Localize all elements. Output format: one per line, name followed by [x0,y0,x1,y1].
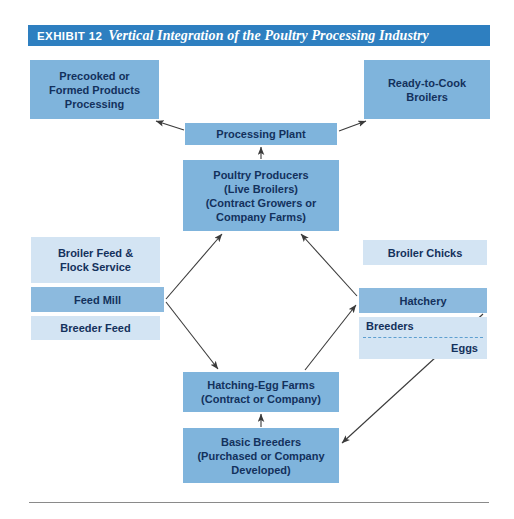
node-label-line: Broiler Feed & [58,246,133,260]
node-label-line: Developed) [231,463,290,477]
edge-processing-plant-to-ready-to-cook [339,121,366,131]
edge-feed-mill-to-poultry-producers [166,234,222,299]
exhibit-title: Vertical Integration of the Poultry Proc… [108,28,429,44]
node-precooked-formed-products-processing[interactable]: Precooked or Formed Products Processing [30,60,159,119]
node-label-line: Basic Breeders [221,435,301,449]
exhibit-figure: EXHIBIT 12 Vertical Integration of the P… [0,0,514,519]
node-label-line: Hatching-Egg Farms [207,378,315,392]
node-label-line: Company Farms) [216,210,306,224]
node-label-breeders: Breeders [366,319,414,333]
node-label-line: Broiler Chicks [388,246,463,260]
node-breeder-feed[interactable]: Breeder Feed [31,316,160,340]
node-label-line: Ready-to-Cook [388,76,466,90]
node-processing-plant[interactable]: Processing Plant [185,123,337,145]
node-label-line: Flock Service [60,260,131,274]
exhibit-header-bar: EXHIBIT 12 Vertical Integration of the P… [28,25,490,46]
node-poultry-producers[interactable]: Poultry Producers (Live Broilers) (Contr… [183,160,339,231]
dashed-divider [363,337,483,338]
node-label-eggs: Eggs [451,341,478,355]
node-label-line: Precooked or [59,69,129,83]
node-label-line: Breeder Feed [60,321,130,335]
edge-hatching-egg-farms-to-hatchery [305,305,356,370]
node-label-line: (Live Broilers) [224,182,298,196]
node-feed-mill[interactable]: Feed Mill [31,287,164,312]
node-breeders-eggs[interactable]: Breeders Eggs [359,317,487,359]
node-label-line: Feed Mill [74,293,121,307]
node-broiler-feed-flock-service[interactable]: Broiler Feed & Flock Service [31,237,160,283]
node-label-line: Hatchery [399,294,446,308]
node-label-line: (Purchased or Company [197,449,324,463]
node-basic-breeders[interactable]: Basic Breeders (Purchased or Company Dev… [183,428,339,483]
node-label-line: Poultry Producers [213,168,308,182]
exhibit-number-label: EXHIBIT 12 [37,30,102,42]
node-label-line: (Contract Growers or [206,196,317,210]
node-hatching-egg-farms[interactable]: Hatching-Egg Farms (Contract or Company) [183,372,339,412]
edge-hatchery-to-poultry-producers [301,234,357,296]
node-hatchery[interactable]: Hatchery [359,288,487,313]
node-label-line: (Contract or Company) [201,392,321,406]
node-ready-to-cook-broilers[interactable]: Ready-to-Cook Broilers [364,60,490,119]
footer-divider [29,502,489,503]
node-broiler-chicks[interactable]: Broiler Chicks [363,240,487,265]
node-label-line: Formed Products [49,83,140,97]
edge-feed-mill-to-hatching-egg-farms [166,302,218,369]
node-label-line: Processing [65,97,124,111]
node-label-line: Broilers [406,90,448,104]
edge-processing-plant-to-precooked [156,121,184,130]
node-label-line: Processing Plant [216,127,305,141]
